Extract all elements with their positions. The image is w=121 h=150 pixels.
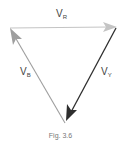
label-vb-sub: B [27,72,31,78]
vector-vb [10,28,65,123]
arrowhead-vb-icon [10,28,22,45]
label-vy: VY [101,67,112,78]
label-vb: VB [20,67,31,78]
label-vy-sub: Y [108,72,112,78]
label-vr-sub: R [63,14,67,20]
label-vy-main: V [101,66,108,77]
vector-vr [10,22,117,32]
label-vb-main: V [20,66,27,77]
label-vr: VR [56,9,67,20]
arrowhead-vy-icon [66,104,77,121]
label-vr-main: V [56,8,63,19]
figure-caption: Fig. 3.6 [0,132,121,139]
